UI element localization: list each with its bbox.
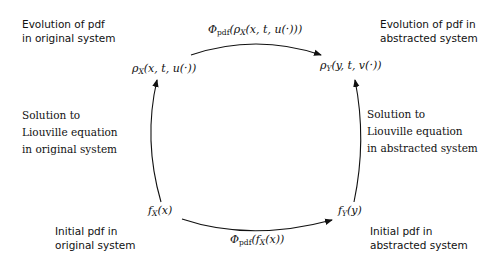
label-top-left-line1: Evolution of pdf bbox=[22, 17, 115, 31]
label-bottom-right-line1: Initial pdf in bbox=[370, 224, 468, 238]
label-bottom-left: Initial pdf in original system bbox=[55, 224, 136, 252]
label-top-right: Evolution of pdf in abstracted system bbox=[380, 17, 478, 45]
bottom-arrow bbox=[182, 219, 332, 231]
edge-bottom-phi: Φ bbox=[230, 233, 239, 246]
label-bottom-left-line1: Initial pdf in bbox=[55, 224, 136, 238]
label-mid-left-line1: Solution to bbox=[22, 107, 118, 124]
edge-top-tail: (x, t, u(·))) bbox=[246, 23, 303, 36]
node-rho-x-args: (x, t, u(·)) bbox=[144, 62, 196, 75]
edge-bottom-args: (f bbox=[251, 233, 259, 246]
label-top-right-line2: abstracted system bbox=[380, 31, 478, 45]
node-f-x-args: (x) bbox=[157, 204, 172, 217]
node-rho-x: ρX(x, t, u(·)) bbox=[132, 62, 196, 76]
edge-top-sub: pdf bbox=[217, 28, 229, 37]
edge-top-args: (ρ bbox=[229, 23, 240, 36]
label-bottom-left-line2: original system bbox=[55, 238, 136, 252]
node-f-y-args: (y) bbox=[347, 204, 362, 217]
edge-label-bottom: Φpdf(fX(x)) bbox=[230, 233, 284, 247]
label-mid-right-line1: Solution to bbox=[367, 106, 478, 123]
label-mid-right-line3: in abstracted system bbox=[367, 140, 478, 157]
top-arrow bbox=[191, 44, 321, 55]
edge-label-top: Φpdf(ρX(x, t, u(·))) bbox=[208, 23, 302, 37]
label-bottom-right: Initial pdf in abstracted system bbox=[370, 224, 468, 252]
node-f-x: fX(x) bbox=[148, 204, 172, 218]
label-mid-left: Solution to Liouville equation in origin… bbox=[22, 107, 118, 158]
node-f-y: fY(y) bbox=[338, 204, 362, 218]
edge-bottom-tail: (x)) bbox=[265, 233, 284, 246]
label-mid-right-line2: Liouville equation bbox=[367, 123, 478, 140]
label-mid-right: Solution to Liouville equation in abstra… bbox=[367, 106, 478, 157]
label-mid-left-line2: Liouville equation bbox=[22, 124, 118, 141]
label-top-left-line2: in original system bbox=[22, 31, 115, 45]
node-rho-y-args: (y, t, v(·)) bbox=[331, 59, 381, 72]
edge-bottom-sub: pdf bbox=[239, 238, 251, 247]
label-top-left: Evolution of pdf in original system bbox=[22, 17, 115, 45]
left-arrow bbox=[151, 80, 161, 202]
right-arrow bbox=[354, 80, 361, 202]
node-rho-y: ρY(y, t, v(·)) bbox=[320, 59, 381, 73]
label-bottom-right-line2: abstracted system bbox=[370, 238, 468, 252]
label-mid-left-line3: in original system bbox=[22, 141, 118, 158]
label-top-right-line1: Evolution of pdf in bbox=[380, 17, 478, 31]
edge-top-phi: Φ bbox=[208, 23, 217, 36]
